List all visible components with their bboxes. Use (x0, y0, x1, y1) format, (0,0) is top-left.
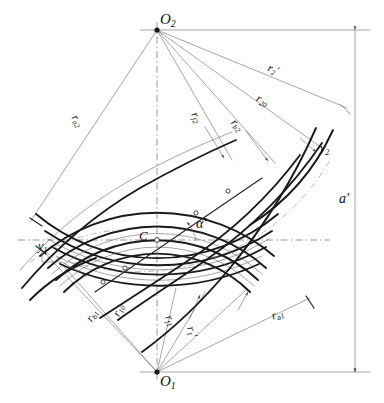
cone-line-f1 (157, 288, 176, 372)
label-y1-sub: 1 (43, 246, 47, 255)
leader-rf1 (190, 295, 200, 318)
apex-node-O2 (154, 27, 159, 32)
label-y2-sub: 2 (325, 148, 329, 157)
label-y1: y1 (38, 240, 47, 252)
label-apex-O1-letter: O (160, 373, 171, 389)
arc-rb1-left-extension (30, 258, 96, 300)
tick-ra2-end (30, 218, 42, 226)
flank-curve-right-outer (118, 143, 322, 320)
label-apex-O1-sub: 1 (171, 380, 176, 391)
label-pitch-point-C-letter: C (139, 228, 148, 243)
label-pressure-angle: α′ (196, 217, 206, 231)
leader-rb2 (246, 131, 268, 161)
contact-point-lower-2 (101, 280, 105, 284)
contact-point-C (155, 238, 160, 243)
label-pressure-angle-prime: ′ (203, 216, 206, 231)
bevel-gear-geometry-figure: O2 O1 C α′ a′ ra2 rf2 rb2 r20 r2′ y2 y1 (0, 0, 384, 403)
arc-family-gear1 (30, 213, 274, 300)
label-apex-O2-sub: 2 (171, 18, 176, 29)
label-apex-O2: O2 (160, 12, 176, 27)
leader-y2 (300, 138, 316, 152)
label-center-distance-letter: a (339, 191, 346, 206)
label-y2: y2 (320, 142, 329, 154)
label-center-distance-prime: ′ (346, 191, 349, 206)
cone-line-f1-right (157, 290, 246, 372)
apex-node-O1 (154, 369, 159, 374)
contact-point-upper-1 (194, 211, 198, 215)
tick-r2prime-end (340, 104, 350, 114)
cone-line-f2 (157, 30, 232, 160)
label-apex-O2-letter: O (160, 11, 171, 27)
diagram-canvas (0, 0, 384, 403)
flank-curve-right-inner (100, 155, 300, 318)
contact-point-lower-1 (123, 266, 127, 270)
line-of-action (95, 178, 262, 292)
line-of-action-segment (95, 178, 262, 292)
flank-curve-left-outer (20, 132, 232, 270)
cone-line-2prime-right (157, 30, 347, 108)
label-apex-O1: O1 (160, 374, 176, 389)
label-center-distance: a′ (339, 192, 349, 206)
leader-r1prime (238, 292, 248, 310)
label-pitch-point-C: C (139, 229, 148, 242)
radius-leaders (30, 104, 350, 318)
cone-line-10-left (60, 262, 157, 372)
contact-point-upper-2 (226, 189, 230, 193)
cone-line-a2-left (30, 30, 157, 222)
cone-line-a1-right (157, 298, 310, 372)
